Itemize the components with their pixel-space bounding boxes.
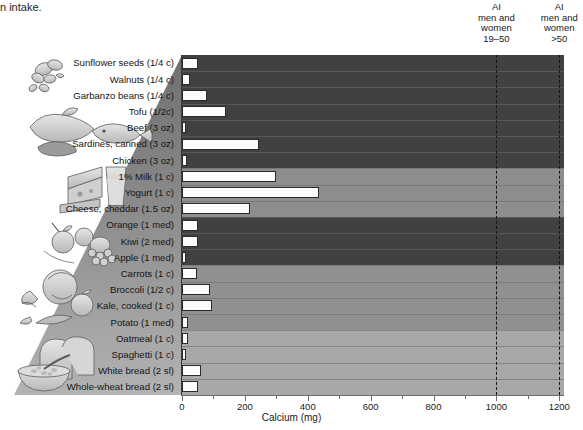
bar	[182, 58, 198, 69]
row-separator	[182, 330, 564, 331]
category-label: Beef (3 oz)	[127, 122, 174, 133]
row-separator	[182, 233, 564, 234]
x-tick-label: 1000	[486, 401, 507, 412]
row-separator	[182, 314, 564, 315]
x-tick-label: 600	[363, 401, 379, 412]
x-tick-minor	[528, 396, 529, 399]
row-separator	[182, 120, 564, 121]
bar	[182, 365, 201, 376]
bar	[182, 220, 198, 231]
row-separator	[182, 379, 564, 380]
category-label: Carrots (1 c)	[121, 268, 174, 279]
category-label: Garbanzo beans (1/4 c)	[73, 90, 174, 101]
category-label: White bread (2 sl)	[98, 365, 174, 376]
x-tick-minor	[276, 396, 277, 399]
category-label: Orange (1 med)	[106, 219, 174, 230]
category-label: Oatmeal (1 c)	[116, 333, 174, 344]
category-label: Apple (1 med)	[114, 252, 174, 263]
category-label: Whole-wheat bread (2 sl)	[67, 381, 174, 392]
annotation-line: AI	[522, 2, 583, 13]
x-tick-label: 800	[426, 401, 442, 412]
bar	[182, 268, 197, 279]
category-label: Kale, cooked (1 c)	[97, 300, 174, 311]
caption-fragment: n intake.	[0, 1, 42, 14]
bar	[182, 284, 210, 295]
x-tick-label: 400	[300, 401, 316, 412]
row-separator	[182, 298, 564, 299]
reference-line-ai-over-50	[559, 55, 560, 395]
row-separator	[182, 282, 564, 283]
bar	[182, 122, 186, 133]
bar	[182, 203, 250, 214]
x-tick-label: 0	[179, 401, 184, 412]
row-separator	[182, 201, 564, 202]
bar	[182, 74, 190, 85]
row-separator	[182, 136, 564, 137]
category-label: Cheese, cheddar (1.5 oz)	[66, 203, 174, 214]
x-tick-minor	[402, 396, 403, 399]
plot-left-axis	[181, 55, 182, 396]
row-separator	[182, 104, 564, 105]
row-separator	[182, 185, 564, 186]
bar	[182, 236, 198, 247]
row-separator	[182, 363, 564, 364]
calcium-content-figure: n intake. AI men and women 19–50 AI men …	[0, 0, 583, 430]
bar	[182, 106, 226, 117]
category-label-column: Sunflower seeds (1/4 c)Walnuts (1/4 c)Ga…	[0, 55, 178, 395]
bar	[182, 252, 186, 263]
row-separator	[182, 71, 564, 72]
bar	[182, 187, 319, 198]
category-label: Tofu (1/2c)	[129, 106, 174, 117]
x-tick-minor	[339, 396, 340, 399]
annotation-line: >50	[522, 34, 583, 45]
row-separator	[182, 168, 564, 169]
x-tick-minor	[465, 396, 466, 399]
plot-area	[182, 55, 564, 395]
x-tick-label: 1200	[549, 401, 570, 412]
category-label: Sunflower seeds (1/4 c)	[73, 57, 174, 68]
x-axis-line	[181, 395, 564, 396]
row-separator	[182, 217, 564, 218]
category-label: Chicken (3 oz)	[112, 155, 174, 166]
row-separator	[182, 249, 564, 250]
row-separator	[182, 152, 564, 153]
category-label: Kiwi (2 med)	[121, 236, 174, 247]
category-label: Sardines, canned (3 oz)	[72, 138, 174, 149]
x-tick-label: 200	[237, 401, 253, 412]
annotation-ai-over-50: AI men and women >50	[522, 2, 583, 44]
bar	[182, 381, 198, 392]
bar	[182, 139, 259, 150]
category-label: 1% Milk (1 c)	[119, 171, 174, 182]
bar	[182, 90, 207, 101]
category-label: Spaghetti (1 c)	[112, 349, 174, 360]
group-band-fruits	[182, 217, 564, 266]
bar	[182, 171, 276, 182]
row-separator	[182, 265, 564, 266]
category-label: Potato (1 med)	[111, 317, 174, 328]
bar	[182, 333, 188, 344]
x-axis-title: Calcium (mg)	[0, 412, 583, 423]
x-tick-minor	[213, 396, 214, 399]
category-label: Broccoli (1/2 c)	[110, 284, 174, 295]
bar	[182, 317, 188, 328]
bar	[182, 349, 186, 360]
bar	[182, 300, 212, 311]
category-label: Walnuts (1/4 c)	[110, 74, 174, 85]
row-separator	[182, 346, 564, 347]
reference-line-ai-19-50	[496, 55, 497, 395]
bar	[182, 155, 187, 166]
row-separator	[182, 87, 564, 88]
category-label: Yogurt (1 c)	[125, 187, 174, 198]
